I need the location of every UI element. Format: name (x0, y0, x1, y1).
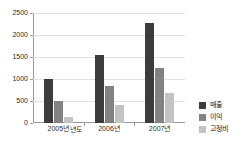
top-edge-artifact-text: · · · · · (8, 1, 158, 7)
legend-label: 고정비 (210, 125, 228, 133)
bar-고정비-2007년 (165, 93, 174, 123)
legend: 매출이익고정비 (199, 99, 247, 135)
x-axis-title: 년도 (70, 126, 82, 134)
legend-label: 매출 (210, 101, 222, 109)
bar-이익-2007년 (155, 68, 164, 123)
x-tick-mark (134, 123, 135, 126)
bar-group (134, 13, 185, 123)
bar-매출-2007년 (145, 23, 154, 123)
bar-고정비-2005년 (64, 117, 73, 123)
x-axis-tick-label: 2007년 (149, 125, 171, 133)
bar-매출-2005년 (44, 79, 53, 123)
x-axis-tick-label: 2005년 (48, 125, 70, 133)
x-axis-tick-label: 2006년 (98, 125, 120, 133)
y-axis-tick-label: 1500 (12, 53, 28, 61)
y-axis-tick-label: 2000 (12, 31, 28, 39)
bar-groups (33, 13, 185, 123)
legend-swatch-icon (199, 126, 206, 133)
y-axis-tick-label: 2500 (12, 9, 28, 17)
bar-이익-2006년 (105, 86, 114, 123)
legend-label: 이익 (210, 113, 222, 121)
x-tick-mark (84, 123, 85, 126)
bar-group (33, 13, 84, 123)
legend-item-매출[interactable]: 매출 (199, 99, 247, 111)
bar-매출-2006년 (95, 55, 104, 123)
y-axis-tick-label: 1000 (12, 75, 28, 83)
y-tick-mark (30, 123, 33, 124)
bar-group (84, 13, 135, 123)
bar-chart: · · · · · 05001000150020002500 2005년2006… (0, 0, 248, 159)
bar-고정비-2006년 (115, 105, 124, 123)
legend-item-고정비[interactable]: 고정비 (199, 123, 247, 135)
legend-swatch-icon (199, 102, 206, 109)
bar-이익-2005년 (54, 101, 63, 123)
legend-item-이익[interactable]: 이익 (199, 111, 247, 123)
plot-area: 05001000150020002500 2005년2006년2007년 (33, 13, 185, 123)
legend-swatch-icon (199, 114, 206, 121)
y-axis-tick-label: 500 (16, 97, 28, 105)
y-axis-tick-label: 0 (24, 119, 28, 127)
